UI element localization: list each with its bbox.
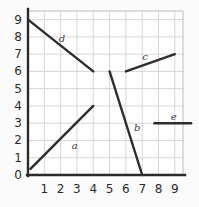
y-tick-label: 6 (8, 65, 22, 77)
series-label-c: c (142, 52, 148, 62)
plot-area-background (28, 11, 183, 175)
plot-canvas (0, 0, 199, 207)
y-tick-label: 2 (8, 134, 22, 146)
x-tick-label: 5 (103, 183, 117, 195)
x-tick-label: 7 (135, 183, 149, 195)
series-label-b: b (134, 123, 140, 133)
y-tick-label: 5 (8, 83, 22, 95)
x-tick-label: 9 (168, 183, 182, 195)
y-tick-label: 1 (8, 152, 22, 164)
x-tick-label: 4 (86, 183, 100, 195)
y-tick-label: 7 (8, 48, 22, 60)
y-tick-label: 8 (8, 31, 22, 43)
x-tick-label: 2 (54, 183, 68, 195)
x-tick-label: 8 (152, 183, 166, 195)
y-tick-label: 4 (8, 100, 22, 112)
y-tick-label: 9 (8, 14, 22, 26)
series-label-e: e (171, 112, 177, 122)
x-tick-label: 6 (119, 183, 133, 195)
line-graph-figure: 0123456789123456789abcde (0, 0, 199, 207)
y-tick-label: 0 (8, 169, 22, 181)
x-tick-label: 3 (70, 183, 84, 195)
x-tick-label: 1 (37, 183, 51, 195)
y-tick-label: 3 (8, 117, 22, 129)
series-label-d: d (59, 34, 65, 44)
series-label-a: a (72, 141, 78, 151)
